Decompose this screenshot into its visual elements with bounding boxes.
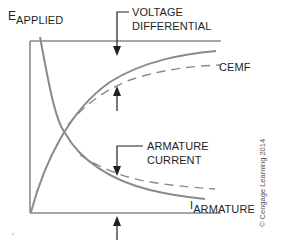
cemf-curve xyxy=(31,51,216,212)
i-armature-label: IARMATURE xyxy=(190,199,255,211)
e-applied-main: E xyxy=(8,9,16,23)
armature-current-line-2: CURRENT xyxy=(147,154,209,166)
cemf-dashed-curve xyxy=(68,65,220,125)
armature-current-leader xyxy=(117,146,143,168)
voltage-differential-line-2: DIFFERENTIAL xyxy=(132,20,211,32)
e-applied-label: EAPPLIED xyxy=(8,10,63,22)
e-applied-sub: APPLIED xyxy=(16,14,63,26)
cemf-label: CEMF xyxy=(219,61,251,73)
voltage-differential-leader xyxy=(117,12,129,48)
arrow-down-icon xyxy=(113,166,121,176)
voltage-differential-line-1: VOLTAGE xyxy=(132,6,211,18)
arrow-up-icon xyxy=(113,86,121,96)
voltage-differential-label: VOLTAGE DIFFERENTIAL xyxy=(132,6,211,32)
armature-current-label: ARMATURE CURRENT xyxy=(147,140,209,166)
dot-mark xyxy=(12,233,14,235)
copyright-notice: © Cengage Learning 2014 xyxy=(258,139,267,227)
arrow-down-icon xyxy=(113,46,121,56)
armature-current-line-1: ARMATURE xyxy=(147,140,209,152)
arrow-up-icon xyxy=(113,216,121,226)
i-armature-sub: ARMATURE xyxy=(193,203,255,215)
